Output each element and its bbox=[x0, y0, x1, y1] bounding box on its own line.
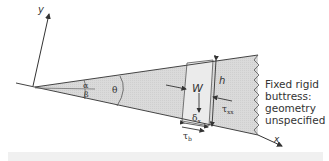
buttress-caption-line-1: Fixed rigid bbox=[265, 78, 319, 90]
theta-label: θ bbox=[112, 85, 117, 95]
buttress-caption-line-2: buttress: bbox=[265, 90, 312, 102]
tau-b-label: τb bbox=[183, 131, 192, 142]
weight-label: W bbox=[192, 82, 204, 95]
wedge-body bbox=[35, 55, 258, 135]
alpha-label: α bbox=[83, 81, 89, 90]
x-axis-label: x bbox=[273, 134, 280, 144]
wedge-diagram: y x α β θ W h δx τxx τb Fixed rigid butt… bbox=[0, 0, 329, 161]
beta-label: β bbox=[84, 90, 89, 99]
y-axis-arrow bbox=[33, 14, 49, 86]
bottom-strip bbox=[8, 152, 323, 161]
height-label: h bbox=[219, 75, 225, 86]
buttress-caption-line-4: unspecified bbox=[265, 114, 325, 126]
buttress-caption-line-3: geometry bbox=[265, 102, 316, 114]
y-axis-label: y bbox=[37, 4, 45, 15]
